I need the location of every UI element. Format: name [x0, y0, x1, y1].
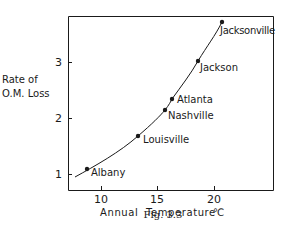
x-ticks — [102, 186, 215, 190]
point-jacksonville — [220, 20, 224, 24]
y-axis-label-line1: Rate of — [2, 74, 38, 85]
y-tick-label-2: 2 — [55, 112, 62, 125]
x-tick-label-15: 15 — [150, 193, 164, 206]
y-tick-label-1: 1 — [55, 168, 62, 181]
figure-caption: Fig. 3.3 — [0, 209, 288, 220]
label-jackson: Jackson — [199, 62, 238, 73]
x-tick-label-10: 10 — [94, 193, 108, 206]
point-louisville — [136, 134, 140, 138]
label-jacksonville: Jacksonville — [219, 25, 275, 36]
point-albany — [85, 167, 89, 171]
chart: 3 2 1 10 15 20 Rate of O.M. Loss Annual … — [0, 0, 288, 229]
label-louisville: Louisville — [143, 134, 189, 145]
label-atlanta: Atlanta — [177, 94, 213, 105]
label-albany: Albany — [91, 167, 125, 178]
x-tick-label-20: 20 — [207, 193, 221, 206]
y-tick-label-3: 3 — [55, 56, 62, 69]
chart-svg: 3 2 1 10 15 20 Rate of O.M. Loss Annual … — [0, 0, 288, 229]
label-nashville: Nashville — [168, 110, 214, 121]
point-atlanta — [170, 97, 174, 101]
point-nashville — [163, 108, 167, 112]
plot-frame — [69, 17, 274, 191]
y-axis-label-line2: O.M. Loss — [2, 88, 50, 99]
